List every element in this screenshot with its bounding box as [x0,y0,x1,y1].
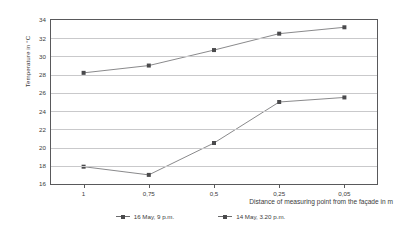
x-axis-tick-mark [84,184,85,188]
y-axis-tick-label: 34 [26,16,46,23]
data-point-marker [147,173,151,177]
y-axis-tick-label: 28 [26,71,46,78]
y-axis-tick-label: 22 [26,126,46,133]
series-layer [51,20,377,184]
x-axis-tick-mark [344,184,345,188]
y-axis-tick-label: 18 [26,162,46,169]
legend-marker-icon [218,213,232,220]
gridline [51,166,377,167]
x-axis-tick-label: 0,75 [143,190,155,197]
gridline [51,75,377,76]
data-point-marker [212,48,216,52]
chart-container: Temperature in °C 34323028262422201816 1… [0,0,401,234]
y-axis-tick-label: 30 [26,53,46,60]
data-point-marker [277,32,281,36]
data-point-marker [342,95,346,99]
legend-marker-icon [116,213,130,220]
y-axis-tick-label: 24 [26,108,46,115]
legend-label: 16 May, 9 p.m. [134,213,174,220]
gridline [51,38,377,39]
chart-legend: 16 May, 9 p.m.14 May, 3.20 p.m. [0,213,401,220]
x-axis-tick-label: 0,5 [210,190,219,197]
legend-item: 14 May, 3.20 p.m. [218,213,285,220]
gridline [51,93,377,94]
x-axis-tick-mark [214,184,215,188]
gridline [51,148,377,149]
y-axis-tick-label: 26 [26,89,46,96]
x-axis-tick-mark [279,184,280,188]
legend-item: 16 May, 9 p.m. [116,213,174,220]
data-point-marker [212,141,216,145]
data-point-marker [147,64,151,68]
x-axis-title: Distance of measuring point from the faç… [0,198,393,205]
gridline [51,111,377,112]
y-axis-tick-label: 16 [26,180,46,187]
data-point-marker [342,25,346,29]
plot-area [50,19,378,185]
gridline [51,56,377,57]
y-axis-tick-label: 20 [26,144,46,151]
y-axis-tick-label: 32 [26,35,46,42]
legend-label: 14 May, 3.20 p.m. [236,213,285,220]
x-axis-tick-label: 0,25 [273,190,285,197]
x-axis-tick-mark [149,184,150,188]
gridline [51,129,377,130]
data-point-marker [277,100,281,104]
series-line [84,97,345,174]
x-axis-tick-label: 0,05 [338,190,350,197]
x-axis-tick-label: 1 [82,190,85,197]
